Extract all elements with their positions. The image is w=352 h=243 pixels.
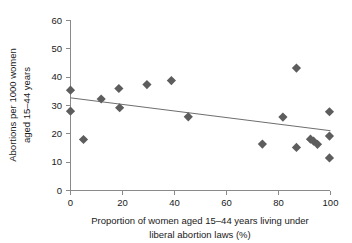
x-axis-title-line2: liberal abortion laws (%) <box>149 229 250 240</box>
y-axis-title-line1: Abortions per 1000 women <box>7 48 18 162</box>
x-tick-label-40: 40 <box>169 197 180 208</box>
data-point <box>258 139 267 148</box>
data-point <box>66 86 75 95</box>
scatter-chart: 0 10 20 30 40 50 60 0 20 40 60 80 100 Pr… <box>0 0 352 243</box>
trend-line <box>71 98 331 131</box>
y-tick-label-0: 0 <box>57 185 62 196</box>
chart-page: 0 10 20 30 40 50 60 0 20 40 60 80 100 Pr… <box>0 0 352 243</box>
data-point <box>142 80 151 89</box>
data-point <box>325 153 334 162</box>
x-tick-label-0: 0 <box>68 197 73 208</box>
data-points-group <box>66 64 334 163</box>
x-tick-label-60: 60 <box>221 197 232 208</box>
y-tick-label-30: 30 <box>51 100 62 111</box>
data-point <box>278 113 287 122</box>
y-tick-label-20: 20 <box>51 128 62 139</box>
data-point <box>292 143 301 152</box>
data-point <box>325 107 334 116</box>
y-tick-label-10: 10 <box>51 156 62 167</box>
x-tick-label-100: 100 <box>323 197 339 208</box>
data-point <box>66 107 75 116</box>
x-tick-label-20: 20 <box>117 197 128 208</box>
data-point <box>167 76 176 85</box>
y-tick-label-50: 50 <box>51 43 62 54</box>
x-axis-ticks <box>71 191 331 196</box>
y-tick-label-40: 40 <box>51 71 62 82</box>
data-point <box>292 64 301 73</box>
y-axis-ticks <box>66 21 71 191</box>
data-point <box>114 84 123 93</box>
data-point <box>79 135 88 144</box>
x-tick-label-80: 80 <box>273 197 284 208</box>
x-axis-title-line1: Proportion of women aged 15–44 years liv… <box>91 215 309 226</box>
y-axis-title-line2: aged 15–44 years <box>21 67 32 143</box>
y-tick-label-60: 60 <box>51 15 62 26</box>
data-point <box>325 132 334 141</box>
